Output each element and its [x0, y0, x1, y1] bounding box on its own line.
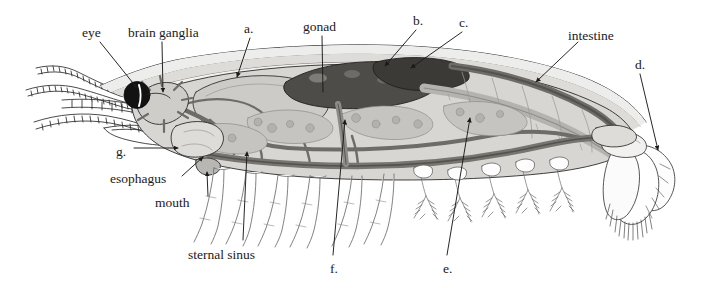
figure-canvas: eyebrain gangliaa.gonadb.c.intestined.g.…	[0, 0, 708, 288]
tail-fan	[601, 132, 675, 240]
label-intestine: intestine	[568, 29, 614, 43]
label-eye: eye	[82, 26, 101, 40]
label-mouth: mouth	[155, 196, 190, 210]
label-g: g.	[116, 145, 126, 159]
mouthparts	[171, 122, 223, 158]
label-a: a.	[244, 22, 253, 36]
label-f: f.	[330, 262, 338, 276]
eye	[124, 82, 150, 109]
label-c: c.	[459, 16, 468, 30]
label-gonad: gonad	[303, 20, 336, 34]
label-sternal-sinus: sternal sinus	[188, 248, 255, 262]
leader-mouth	[207, 172, 208, 196]
label-esophagus: esophagus	[110, 172, 166, 186]
label-e: e.	[443, 262, 452, 276]
anatomy-illustration	[0, 0, 708, 288]
label-brain-ganglia: brain ganglia	[128, 26, 199, 40]
tail-base-segment	[592, 125, 637, 147]
label-d: d.	[635, 58, 645, 72]
label-b: b.	[413, 14, 423, 28]
